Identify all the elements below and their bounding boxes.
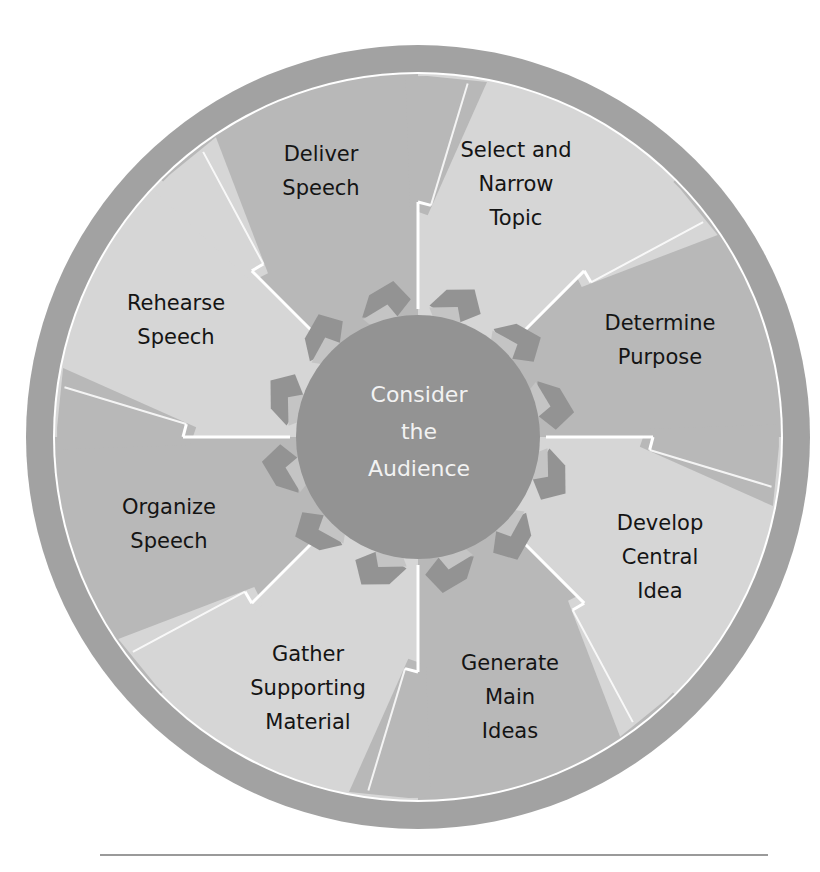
bottom-rule (100, 854, 768, 856)
speech-process-diagram: Select andNarrowTopicDeterminePurposeDev… (0, 0, 820, 872)
